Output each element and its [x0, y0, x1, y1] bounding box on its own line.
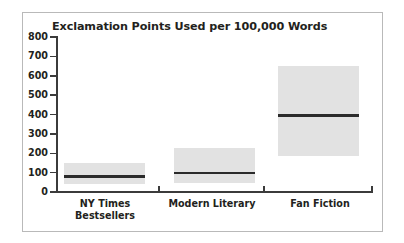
x-axis-label-line: Modern Literary [160, 198, 264, 210]
x-axis-tick-2 [263, 186, 265, 193]
y-axis-tick-label-500: 500 [18, 90, 48, 100]
x-axis-label-1: NY TimesBestsellers [62, 198, 148, 221]
x-axis-label-2: Modern Literary [160, 198, 264, 210]
y-axis-tick-300 [50, 133, 57, 135]
x-axis-label-line: Bestsellers [62, 210, 148, 222]
x-axis-label-line: Fan Fiction [272, 198, 368, 210]
y-axis-tick-200 [50, 153, 57, 155]
y-axis-tick-label-700: 700 [18, 51, 48, 61]
box-1 [64, 163, 145, 184]
y-axis-tick-100 [50, 172, 57, 174]
y-axis-tick-label-100: 100 [18, 168, 48, 178]
box-2 [174, 148, 255, 183]
y-axis-tick-700 [50, 56, 57, 58]
y-axis-tick-400 [50, 114, 57, 116]
y-axis-tick-800 [50, 36, 57, 38]
median-line-2 [174, 172, 255, 174]
x-axis-label-line: NY Times [62, 198, 148, 210]
chart-title: Exclamation Points Used per 100,000 Word… [52, 20, 352, 33]
y-axis-tick-500 [50, 94, 57, 96]
y-axis-tick-label-800: 800 [18, 32, 48, 42]
median-line-3 [278, 114, 359, 116]
x-axis-tick-end [371, 186, 373, 193]
x-axis-line [56, 191, 373, 193]
box-3 [278, 66, 359, 156]
y-axis-tick-600 [50, 75, 57, 77]
median-line-1 [64, 175, 145, 177]
y-axis-tick-label-200: 200 [18, 148, 48, 158]
chart-figure: Exclamation Points Used per 100,000 Word… [0, 0, 404, 243]
x-axis-label-3: Fan Fiction [272, 198, 368, 210]
x-axis-tick-1 [158, 186, 160, 193]
y-axis-tick-label-0: 0 [18, 187, 48, 197]
y-axis-tick-label-600: 600 [18, 71, 48, 81]
y-axis-tick-label-400: 400 [18, 110, 48, 120]
x-axis-tick-start [56, 186, 58, 193]
y-axis-tick-label-300: 300 [18, 129, 48, 139]
